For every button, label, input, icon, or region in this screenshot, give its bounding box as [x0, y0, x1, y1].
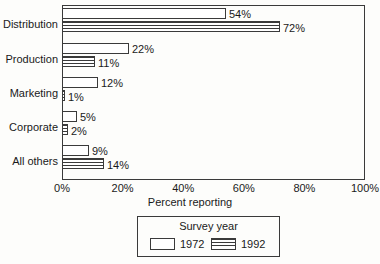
bar-all-others-1972	[62, 145, 89, 156]
xtick-0: 0%	[54, 182, 70, 194]
bar-value-marketing-1992: 1%	[68, 92, 84, 103]
legend-swatch-1992	[211, 238, 236, 250]
legend-entry-1972: 1972	[150, 238, 204, 250]
legend: Survey year 1972 1992	[137, 216, 280, 257]
bar-value-production-1992: 11%	[98, 58, 119, 69]
bar-corporate-1992	[62, 124, 68, 135]
chart-figure: Distribution Production Marketing Corpor…	[0, 0, 380, 264]
bar-value-all-others-1972: 9%	[92, 146, 108, 157]
bar-marketing-1992	[62, 90, 65, 101]
bar-corporate-1972	[62, 111, 77, 122]
legend-swatch-1972	[150, 238, 175, 250]
x-axis-title: Percent reporting	[0, 196, 380, 208]
bar-value-marketing-1972: 12%	[101, 78, 123, 89]
xtick-100: 100%	[351, 182, 379, 194]
category-label-production: Production	[5, 53, 58, 65]
category-label-marketing: Marketing	[10, 87, 58, 99]
category-label-all-others: All others	[12, 155, 58, 167]
bar-all-others-1992	[62, 158, 104, 169]
bar-value-corporate-1992: 2%	[71, 126, 87, 137]
category-label-distribution: Distribution	[3, 18, 58, 30]
bar-distribution-1972	[62, 8, 226, 19]
bar-production-1972	[62, 43, 129, 54]
bar-value-corporate-1972: 5%	[80, 112, 96, 123]
legend-label-1972: 1972	[180, 238, 204, 250]
bar-value-production-1972: 22%	[132, 44, 154, 55]
bar-value-all-others-1992: 14%	[107, 160, 129, 171]
bar-production-1992	[62, 56, 95, 67]
xtick-60: 60%	[233, 182, 255, 194]
xtick-40: 40%	[172, 182, 194, 194]
bar-value-distribution-1992: 72%	[283, 23, 305, 34]
legend-label-1992: 1992	[241, 238, 265, 250]
bar-distribution-1992	[62, 21, 280, 32]
bar-value-distribution-1972: 54%	[229, 9, 251, 20]
bar-marketing-1972	[62, 77, 98, 88]
legend-title: Survey year	[138, 220, 279, 232]
xtick-80: 80%	[293, 182, 315, 194]
xtick-20: 20%	[112, 182, 134, 194]
category-label-corporate: Corporate	[9, 121, 58, 133]
legend-entry-1992: 1992	[211, 238, 265, 250]
